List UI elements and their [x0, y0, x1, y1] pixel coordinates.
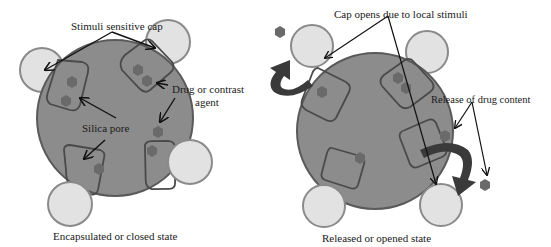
cap-opens-pointer — [325, 16, 388, 58]
label-drug-agent-line2: agent — [195, 96, 219, 108]
cap-open-top-left — [291, 25, 333, 67]
drug-hexagon-released — [480, 179, 490, 191]
cap-open-bottom-right — [420, 184, 462, 226]
label-stimuli-sensitive-cap: Stimuli sensitive cap — [71, 20, 163, 32]
label-release-drug: Release of drug content — [431, 94, 531, 105]
cap-bottom — [303, 185, 345, 227]
label-drug-agent-line1: Drug or contrast — [172, 83, 244, 95]
right-panel-opened-state: Cap opens due to local stimuli Release o… — [270, 8, 531, 244]
drug-delivery-diagram: Stimuli sensitive cap Drug or contrast a… — [0, 0, 551, 247]
left-panel-closed-state: Stimuli sensitive cap Drug or contrast a… — [20, 20, 244, 242]
release-pointer — [472, 102, 487, 175]
caption-opened-state: Released or opened state — [322, 232, 431, 244]
label-cap-opens: Cap opens due to local stimuli — [334, 8, 468, 20]
release-pointer — [455, 102, 472, 128]
label-silica-pore: Silica pore — [82, 122, 129, 134]
cap-right — [168, 140, 212, 184]
caption-closed-state: Encapsulated or closed state — [53, 230, 177, 242]
drug-hexagon-released — [275, 26, 285, 38]
cap-bottom — [48, 182, 92, 226]
